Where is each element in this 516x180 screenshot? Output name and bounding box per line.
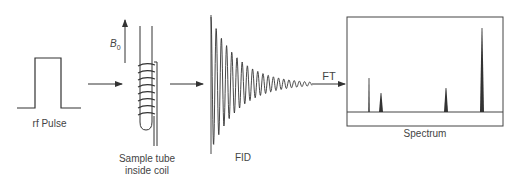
fid-label: FID — [228, 152, 258, 164]
spectrum-peaks — [368, 28, 484, 112]
spectrum-peak — [480, 28, 484, 112]
spectrum-label: Spectrum — [395, 128, 455, 140]
rf-pulse-label: rf Pulse — [22, 118, 77, 130]
spectrum-frame — [347, 17, 503, 126]
b0-letter: B — [110, 38, 117, 49]
ft-label: FT — [318, 70, 340, 82]
spectrum-peak — [368, 78, 370, 112]
coil-lead-wire — [154, 62, 157, 146]
sample-label: Sample tube inside coil — [112, 153, 182, 177]
spectrum-peak — [444, 88, 448, 112]
b0-subscript: 0 — [117, 44, 121, 51]
diagram-graphics — [0, 0, 516, 180]
sample-label-line1: Sample tube — [112, 153, 182, 165]
nmr-process-diagram: rf Pulse B0 Sample tube inside coil FID … — [0, 0, 516, 180]
spectrum-peak — [379, 93, 383, 112]
fid-waveform — [211, 15, 312, 154]
rf-pulse-waveform — [17, 58, 81, 108]
b0-label: B0 — [110, 38, 121, 54]
sample-label-line2: inside coil — [112, 165, 182, 177]
